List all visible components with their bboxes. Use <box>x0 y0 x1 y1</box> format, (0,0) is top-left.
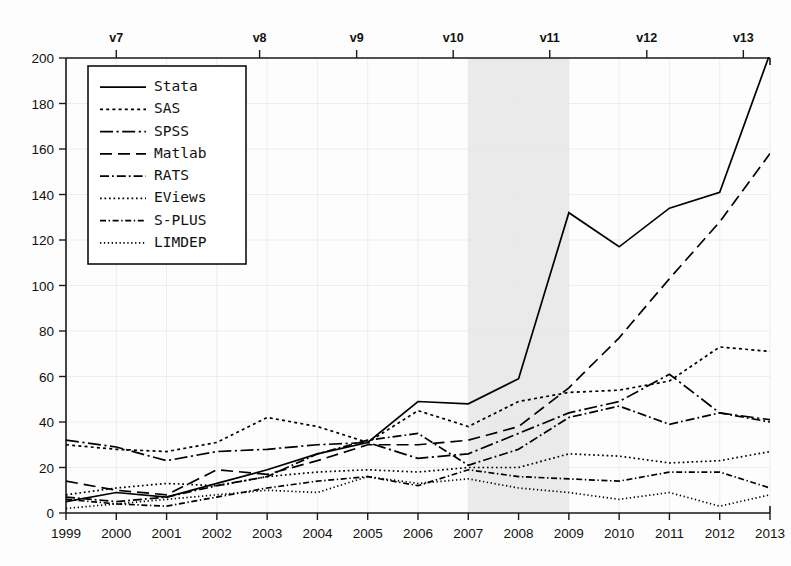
legend-label-stata: Stata <box>154 78 198 94</box>
x-tick-label: 2012 <box>705 526 735 541</box>
x-tick-label: 2002 <box>202 526 232 541</box>
top-axis-ticks-group: v7v8v9v10v11v12v13 <box>109 31 753 58</box>
x-tick-label: 2007 <box>453 526 483 541</box>
x-axis-ticks-group: 1999200020012002200320042005200620072008… <box>51 513 785 541</box>
legend-label-eviews: EViews <box>154 189 206 205</box>
y-tick-label: 160 <box>31 142 54 157</box>
chart-container: 020406080100120140160180200 199920002001… <box>0 0 791 566</box>
line-chart-svg: 020406080100120140160180200 199920002001… <box>0 0 791 566</box>
y-tick-label: 80 <box>39 324 54 339</box>
y-tick-label: 140 <box>31 188 54 203</box>
y-tick-label: 100 <box>31 279 54 294</box>
top-axis-tick-label-v8: v8 <box>253 31 267 45</box>
top-axis-tick-label-v7: v7 <box>109 31 123 45</box>
x-tick-label: 2011 <box>655 526 684 541</box>
top-axis-tick-label-v13: v13 <box>733 31 754 45</box>
legend-label-limdep: LIMDEP <box>154 234 207 250</box>
top-axis-tick-label-v11: v11 <box>540 31 560 45</box>
legend-label-spss: SPSS <box>154 123 189 139</box>
y-tick-label: 40 <box>39 415 54 430</box>
legend-label-rats: RATS <box>154 167 189 183</box>
x-tick-label: 2010 <box>604 526 634 541</box>
y-tick-label: 180 <box>31 97 54 112</box>
legend-label-matlab: Matlab <box>154 145 206 161</box>
x-tick-label: 1999 <box>51 526 81 541</box>
top-axis-tick-label-v9: v9 <box>350 31 364 45</box>
x-tick-label: 2008 <box>504 526 534 541</box>
x-tick-label: 2009 <box>554 526 584 541</box>
x-tick-label: 2013 <box>755 526 785 541</box>
top-axis-tick-label-v10: v10 <box>443 31 464 45</box>
y-tick-label: 0 <box>46 506 54 521</box>
y-tick-label: 60 <box>39 370 54 385</box>
x-tick-label: 2000 <box>101 526 131 541</box>
x-tick-label: 2006 <box>403 526 433 541</box>
legend: StataSASSPSSMatlabRATSEViewsS-PLUSLIMDEP <box>88 66 246 264</box>
y-tick-label: 200 <box>31 51 54 66</box>
y-tick-label: 120 <box>31 233 54 248</box>
y-tick-label: 20 <box>39 461 54 476</box>
x-tick-label: 2001 <box>152 526 182 541</box>
legend-label-s-plus: S-PLUS <box>154 212 206 228</box>
x-tick-label: 2003 <box>252 526 282 541</box>
top-axis-tick-label-v12: v12 <box>636 31 657 45</box>
x-tick-label: 2004 <box>302 526 333 541</box>
y-axis-ticks-group: 020406080100120140160180200 <box>31 51 66 521</box>
x-tick-label: 2005 <box>353 526 383 541</box>
legend-label-sas: SAS <box>154 100 180 116</box>
